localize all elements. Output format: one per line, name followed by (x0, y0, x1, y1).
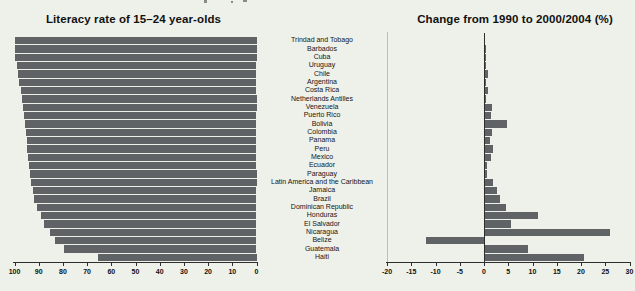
country-label: Jamaica (257, 186, 387, 194)
change-bar (484, 120, 507, 127)
country-label: Barbados (257, 45, 387, 53)
axis-tick-label: 30 (171, 268, 197, 275)
country-label: Uruguay (257, 61, 387, 69)
change-bar (484, 187, 497, 194)
literacy-bar (44, 220, 256, 227)
axis-tick (508, 262, 509, 266)
axis-tick-label: 20 (568, 268, 594, 275)
country-label: Haiti (257, 253, 387, 261)
axis-tick-label: 20 (195, 268, 221, 275)
literacy-bar (15, 45, 257, 52)
axis-tick-label: 100 (2, 268, 28, 275)
literacy-bar (17, 62, 257, 69)
axis-tick (232, 262, 233, 266)
change-bar (484, 204, 506, 211)
axis-tick (257, 262, 258, 266)
right-chart-zero-line (484, 33, 486, 262)
literacy-bar (33, 187, 257, 194)
literacy-bar (21, 87, 257, 94)
axis-tick-label: 30 (617, 268, 635, 275)
country-label: Argentina (257, 78, 387, 86)
axis-tick-label: 25 (592, 268, 618, 275)
axis-tick (15, 262, 16, 266)
country-label: Brazil (257, 195, 387, 203)
country-label: Guatemala (257, 245, 387, 253)
literacy-bar (23, 104, 257, 111)
country-label: Puerto Rico (257, 111, 387, 119)
axis-tick-label: 60 (98, 268, 124, 275)
axis-tick-label: 10 (219, 268, 245, 275)
axis-tick (605, 262, 606, 266)
axis-tick-label: 15 (544, 268, 570, 275)
literacy-bar (29, 162, 256, 169)
axis-tick-label: 70 (74, 268, 100, 275)
literacy-bar (50, 229, 256, 236)
axis-tick-label: 0 (471, 268, 497, 275)
axis-tick-label: -5 (447, 268, 473, 275)
cropped-text-remnant (204, 0, 207, 3)
axis-tick (111, 262, 112, 266)
country-label: Trindad and Tobago (257, 36, 387, 44)
change-bar (484, 212, 538, 219)
change-bar (484, 112, 491, 119)
change-bar (484, 220, 511, 227)
literacy-bar (34, 195, 256, 202)
axis-tick (184, 262, 185, 266)
country-label: Mexico (257, 153, 387, 161)
literacy-bar (18, 70, 257, 77)
country-label: Bolivia (257, 120, 387, 128)
axis-tick (208, 262, 209, 266)
axis-tick (436, 262, 437, 266)
change-bar (484, 195, 500, 202)
axis-tick (39, 262, 40, 266)
country-label: Dominican Republic (257, 203, 387, 211)
axis-tick (160, 262, 161, 266)
literacy-bar (30, 170, 257, 177)
axis-tick (581, 262, 582, 266)
country-label: Cuba (257, 53, 387, 61)
axis-tick (136, 262, 137, 266)
left-chart-title: Literacy rate of 15–24 year-olds (10, 13, 257, 25)
literacy-bar (15, 37, 257, 44)
literacy-bar (27, 137, 257, 144)
literacy-bar (27, 145, 256, 152)
country-label: Ecuador (257, 161, 387, 169)
axis-tick (460, 262, 461, 266)
axis-tick-label: 10 (520, 268, 546, 275)
country-label: Latin America and the Caribbean (257, 178, 387, 186)
right-chart-left-frame (387, 32, 388, 262)
literacy-bar (37, 204, 257, 211)
country-label: Belize (257, 236, 387, 244)
literacy-bar (26, 129, 257, 136)
change-bar (426, 237, 484, 244)
change-bar (484, 179, 493, 186)
change-bar (484, 229, 610, 236)
country-label: Colombia (257, 128, 387, 136)
literacy-bar (64, 245, 256, 252)
country-label: Peru (257, 145, 387, 153)
axis-tick (557, 262, 558, 266)
axis-tick-label: 40 (147, 268, 173, 275)
axis-tick-label: 80 (50, 268, 76, 275)
axis-tick-label: -20 (374, 268, 400, 275)
country-label: Panama (257, 136, 387, 144)
country-label: Venezuela (257, 103, 387, 111)
right-chart-title: Change from 1990 to 2000/2004 (%) (395, 13, 635, 25)
literacy-bar (98, 254, 257, 261)
country-label: Honduras (257, 211, 387, 219)
country-label: El Salvador (257, 220, 387, 228)
axis-tick (411, 262, 412, 266)
change-bar (484, 154, 491, 161)
axis-tick-label: -10 (423, 268, 449, 275)
axis-tick (630, 262, 631, 266)
axis-tick-label: 50 (123, 268, 149, 275)
country-label: Netherlands Antilles (257, 95, 387, 103)
change-bar (484, 129, 492, 136)
literacy-bar (28, 154, 256, 161)
country-label: Costa Rica (257, 86, 387, 94)
axis-tick-label: 5 (495, 268, 521, 275)
change-bar (484, 104, 492, 111)
change-bar (484, 254, 584, 261)
literacy-bar (15, 54, 257, 61)
axis-tick (387, 262, 388, 266)
